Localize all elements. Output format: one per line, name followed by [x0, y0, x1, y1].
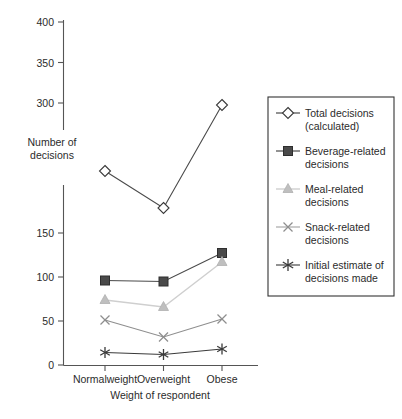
x-axis-title: Weight of respondent	[110, 389, 210, 401]
marker-beverage-normalweight	[101, 276, 110, 285]
legend-label-initial-line2: decisions made	[305, 272, 378, 284]
x-category-label-normalweight: Normalweight	[73, 373, 137, 385]
series-line-total-decisions	[105, 105, 222, 208]
series-beverage-related	[101, 249, 227, 287]
x-axis: Normalweight Overweight Obese Weight of …	[64, 366, 259, 402]
series-snack-related	[101, 315, 227, 342]
legend-label-meal-line1: Meal-related	[305, 183, 364, 195]
chart-canvas: 400 350 300 150 100 50 0 Number of decis…	[0, 0, 402, 419]
y-tick-label-50: 50	[42, 315, 54, 327]
legend-label-beverage-line2: decisions	[305, 158, 349, 170]
marker-snack-obese	[218, 315, 227, 324]
y-axis-title-line2: decisions	[30, 149, 74, 161]
y-axis-title-line1: Number of	[27, 136, 76, 148]
marker-beverage-overweight	[159, 277, 168, 286]
legend-label-meal-line2: decisions	[305, 196, 349, 208]
marker-total-normalweight	[100, 166, 111, 177]
marker-total-obese	[217, 100, 228, 111]
legend-label-total-line1: Total decisions	[305, 107, 374, 119]
legend-label-initial-line1: Initial estimate of	[305, 259, 384, 271]
series-total-decisions	[100, 100, 228, 214]
legend-label-beverage-line1: Beverage-related	[305, 145, 386, 157]
x-category-label-obese: Obese	[207, 373, 238, 385]
y-tick-label-400: 400	[36, 16, 54, 28]
legend-label-snack-line1: Snack-related	[305, 221, 370, 233]
x-category-label-overweight: Overweight	[137, 373, 190, 385]
series-line-snack	[105, 319, 222, 337]
y-tick-label-150: 150	[36, 227, 54, 239]
marker-snack-normalweight	[101, 316, 110, 325]
legend-label-total-line2: (calculated)	[305, 120, 359, 132]
square-filled-marker-icon	[284, 147, 293, 156]
chart-legend: Total decisions (calculated) Beverage-re…	[268, 97, 394, 296]
marker-meal-normalweight	[100, 295, 110, 304]
line-chart: 400 350 300 150 100 50 0 Number of decis…	[0, 0, 402, 419]
y-tick-label-350: 350	[36, 57, 54, 69]
marker-snack-overweight	[159, 333, 168, 342]
legend-label-snack-line2: decisions	[305, 234, 349, 246]
y-tick-label-0: 0	[48, 359, 54, 371]
y-tick-label-300: 300	[36, 97, 54, 109]
marker-total-overweight	[158, 203, 169, 214]
y-axis: 400 350 300 150 100 50 0 Number of decis…	[27, 16, 76, 371]
series-initial-estimate	[100, 344, 227, 361]
y-tick-label-100: 100	[36, 271, 54, 283]
